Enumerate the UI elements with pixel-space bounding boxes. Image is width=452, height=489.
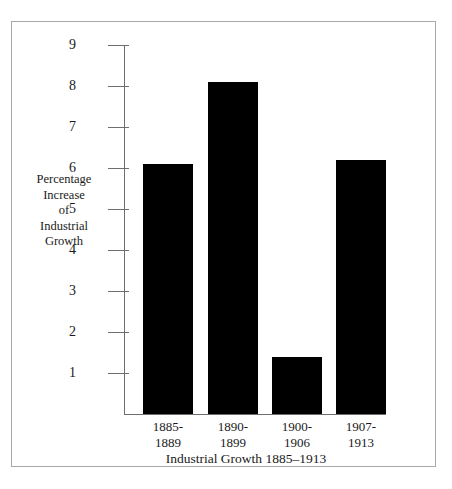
y-tick-label: 1 bbox=[56, 363, 76, 383]
y-axis-title-line: Industrial bbox=[20, 219, 108, 235]
y-tick-label: 7 bbox=[56, 117, 76, 137]
bar-1885-1889 bbox=[143, 164, 193, 414]
y-tick-mark bbox=[108, 168, 129, 169]
y-axis-line bbox=[124, 45, 125, 415]
chart-figure: 987654321 1885-18891890-18991900-1906190… bbox=[0, 0, 452, 489]
bar-1900-1906 bbox=[272, 357, 322, 414]
y-tick-label: 8 bbox=[56, 76, 76, 96]
y-tick-label: 9 bbox=[56, 35, 76, 55]
x-axis-title: Industrial Growth 1885–1913 bbox=[96, 450, 396, 467]
y-axis-title-line: Increase bbox=[20, 188, 108, 204]
x-label-line: 1913 bbox=[316, 435, 406, 451]
y-axis-title-line: Growth bbox=[20, 234, 108, 250]
y-axis-title: PercentageIncreaseofIndustrialGrowth bbox=[20, 172, 108, 250]
y-tick-mark bbox=[108, 127, 129, 128]
y-tick-mark bbox=[108, 373, 129, 374]
y-tick-mark bbox=[108, 332, 129, 333]
x-axis-line bbox=[124, 414, 386, 415]
plot-area: 987654321 1885-18891890-18991900-1906190… bbox=[0, 0, 452, 489]
x-label-line: 1907- bbox=[316, 419, 406, 435]
y-axis-title-line: of bbox=[20, 203, 108, 219]
x-label-1907-1913: 1907-1913 bbox=[316, 419, 406, 450]
y-tick-label: 2 bbox=[56, 322, 76, 342]
bar-1890-1899 bbox=[208, 82, 258, 414]
y-tick-label: 3 bbox=[56, 281, 76, 301]
y-axis-title-line: Percentage bbox=[20, 172, 108, 188]
y-tick-mark bbox=[108, 86, 129, 87]
bar-1907-1913 bbox=[336, 160, 386, 414]
y-tick-mark bbox=[108, 209, 129, 210]
y-tick-mark bbox=[108, 45, 129, 46]
y-tick-mark bbox=[108, 250, 129, 251]
y-tick-mark bbox=[108, 291, 129, 292]
